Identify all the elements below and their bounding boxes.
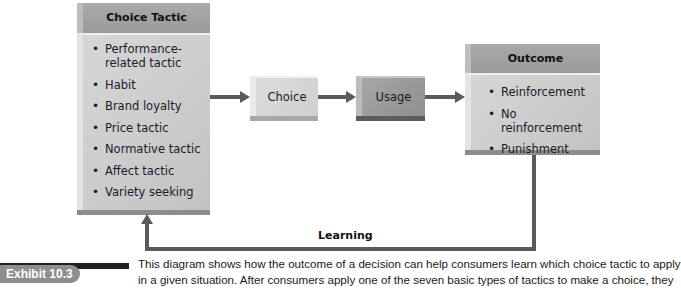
- list-item: Brand loyalty: [91, 99, 206, 113]
- arrowhead-up-icon: [141, 214, 153, 224]
- choice-box: Choice: [250, 76, 318, 116]
- caption-line: in a given situation. After consumers ap…: [138, 272, 608, 288]
- arrowhead-right-icon: [455, 91, 465, 103]
- usage-label: Usage: [376, 90, 412, 104]
- caption-line: This diagram shows how the outcome of a …: [138, 256, 608, 272]
- outcome-list: Reinforcement No reinforcement Punishmen…: [487, 85, 596, 156]
- outcome-header: Outcome: [465, 44, 600, 73]
- arrow-usage-to-outcome: [425, 95, 457, 99]
- list-item: Affect tactic: [91, 164, 206, 178]
- learning-label: Learning: [318, 229, 373, 242]
- list-item: No reinforcement: [487, 107, 596, 135]
- feedback-line-bottom: [145, 247, 536, 251]
- choice-tactic-title: Choice Tactic: [106, 11, 187, 24]
- list-item: Normative tactic: [91, 142, 206, 156]
- exhibit-caption: This diagram shows how the outcome of a …: [138, 256, 608, 288]
- exhibit-badge: Exhibit 10.3: [0, 265, 80, 283]
- outcome-title: Outcome: [508, 52, 563, 65]
- arrow-choice-to-usage: [318, 95, 348, 99]
- choice-tactic-box: Performance-related tactic Habit Brand l…: [77, 33, 210, 210]
- list-item: Habit: [91, 78, 206, 92]
- list-item: Performance-related tactic: [91, 42, 220, 70]
- list-item: Reinforcement: [487, 85, 596, 99]
- choice-tactic-header: Choice Tactic: [77, 3, 210, 33]
- feedback-line-down: [532, 155, 536, 251]
- arrowhead-right-icon: [240, 91, 250, 103]
- exhibit-label: Exhibit 10.3: [6, 267, 73, 281]
- feedback-line-up: [145, 222, 149, 251]
- arrowhead-right-icon: [346, 91, 356, 103]
- arrow-tactic-to-choice: [210, 95, 242, 99]
- choice-label: Choice: [268, 90, 307, 104]
- usage-box: Usage: [356, 76, 425, 116]
- list-item: Punishment: [487, 142, 596, 156]
- choice-tactic-list: Performance-related tactic Habit Brand l…: [91, 42, 206, 199]
- list-item: Variety seeking: [91, 185, 206, 199]
- outcome-box: Reinforcement No reinforcement Punishmen…: [465, 73, 600, 150]
- list-item: Price tactic: [91, 121, 206, 135]
